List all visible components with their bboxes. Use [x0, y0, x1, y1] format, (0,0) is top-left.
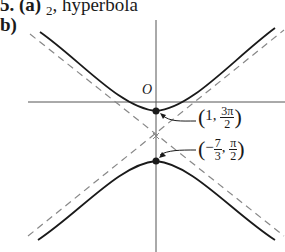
origin-label: O — [142, 82, 152, 98]
leader-line-2 — [160, 150, 196, 155]
point-label-1: (1, 3π2) — [198, 104, 242, 130]
vertex-point-2 — [153, 158, 160, 165]
vertex-point-1 — [153, 108, 160, 115]
hyperbola-graph — [0, 0, 285, 252]
fraction-3pi-2: 3π2 — [220, 105, 234, 130]
leader-line-1 — [162, 115, 196, 121]
point-label-2: (−73, π2) — [198, 136, 245, 162]
hyperbola-upper-branch — [40, 28, 275, 111]
fraction-7-3: 73 — [214, 137, 222, 162]
